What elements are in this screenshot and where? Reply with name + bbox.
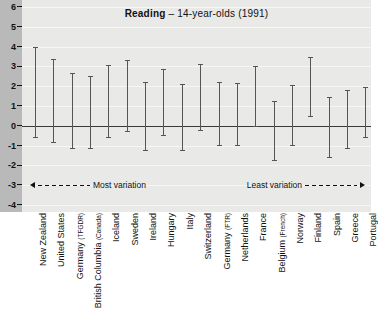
range-bar: [310, 57, 311, 116]
range-bar-top-cap: [217, 82, 222, 83]
category-label-main: Greece: [350, 213, 360, 243]
category-label: Portugal: [369, 213, 378, 247]
range-bar: [72, 73, 73, 147]
y-axis-tick: -1: [0, 140, 22, 152]
range-bar-bottom-cap: [272, 160, 277, 161]
range-bar-top-cap: [106, 65, 111, 66]
category-label: Italy: [186, 213, 195, 230]
category-label: Hungary: [167, 213, 176, 247]
most-variation-label: Most variation: [93, 180, 146, 190]
category-label-main: New Zealand: [38, 213, 48, 266]
category-label-main: Switzerland: [203, 213, 213, 260]
range-bar: [347, 90, 348, 147]
most-variation-annotation: Most variation: [30, 180, 146, 190]
grid-line: [22, 106, 371, 107]
range-bar-top-cap: [345, 90, 350, 91]
grid-line: [22, 27, 371, 28]
y-axis-tick-label: -2: [8, 159, 17, 171]
dashed-line-left: [38, 185, 90, 186]
variation-annotations: Most variation Least variation: [22, 180, 371, 193]
y-axis-tick: 1: [0, 100, 22, 112]
range-bar-top-cap: [51, 59, 56, 60]
y-axis-tick: 2: [0, 80, 22, 92]
range-bar-bottom-cap: [180, 150, 185, 151]
range-bar-top-cap: [88, 76, 93, 77]
range-bar-top-cap: [33, 47, 38, 48]
category-label-main: Sweden: [130, 213, 140, 246]
range-bar-top-cap: [327, 97, 332, 98]
category-label: Finland: [314, 213, 323, 243]
category-label: British Columbia (Canada): [94, 213, 103, 308]
y-axis-tick: -2: [0, 159, 22, 171]
grid-line: [22, 165, 371, 166]
range-bar-bottom-cap: [235, 145, 240, 146]
range-bar-top-cap: [253, 66, 258, 67]
range-bar-top-cap: [235, 83, 240, 84]
category-label: Iceland: [112, 213, 121, 242]
category-label: Switzerland: [204, 213, 213, 260]
y-axis-tick-label: -3: [8, 179, 17, 191]
category-label-main: United States: [56, 213, 66, 267]
category-label: Sweden: [131, 213, 140, 246]
category-label-sub: (FTR): [224, 213, 231, 230]
category-label: France: [259, 213, 268, 241]
y-axis-tick: -4: [0, 199, 22, 211]
category-label-main: British Columbia: [93, 240, 103, 308]
chart-title-rest: – 14-year-olds (1991): [166, 8, 269, 19]
range-bar-top-cap: [70, 73, 75, 74]
category-label-main: Finland: [313, 213, 323, 243]
y-axis-tick: 4: [0, 41, 22, 53]
zero-line: [22, 126, 371, 127]
category-label-main: Italy: [185, 213, 195, 230]
y-axis-tick-label: -4: [8, 199, 17, 211]
range-bar: [53, 59, 54, 141]
range-bar-bottom-cap: [70, 148, 75, 149]
range-bar: [329, 97, 330, 157]
range-bar-bottom-cap: [253, 126, 258, 127]
least-variation-annotation: Least variation: [247, 180, 365, 190]
range-bar-top-cap: [125, 60, 130, 61]
category-label-sub: (Canada): [95, 213, 102, 240]
range-bar-bottom-cap: [88, 148, 93, 149]
range-bar: [200, 64, 201, 129]
range-bar: [108, 65, 109, 136]
range-bar: [237, 83, 238, 144]
range-bar-top-cap: [363, 87, 368, 88]
category-label: Spain: [333, 213, 342, 236]
category-label-main: Netherlands: [240, 213, 250, 262]
range-bar-top-cap: [290, 85, 295, 86]
range-bar: [255, 66, 256, 125]
range-bar-top-cap: [198, 64, 203, 65]
category-label-main: France: [258, 213, 268, 241]
range-bar: [219, 82, 220, 144]
arrow-left-icon: [30, 182, 35, 188]
category-label: Norway: [296, 213, 305, 244]
category-label-main: Ireland: [148, 213, 158, 241]
range-bar: [145, 82, 146, 149]
category-label-main: Hungary: [166, 213, 176, 247]
range-bar-bottom-cap: [363, 137, 368, 138]
category-label-sub: (French): [279, 213, 286, 238]
range-bar-top-cap: [161, 69, 166, 70]
category-label-main: Iceland: [111, 213, 121, 242]
grid-line: [22, 86, 371, 87]
chart-title: Reading – 14-year-olds (1991): [22, 8, 371, 19]
range-bar: [35, 47, 36, 137]
range-bar-bottom-cap: [345, 148, 350, 149]
range-bar-bottom-cap: [33, 137, 38, 138]
y-axis-tick: 3: [0, 60, 22, 72]
category-label: New Zealand: [39, 213, 48, 266]
range-bar-bottom-cap: [51, 142, 56, 143]
dashed-line-right: [305, 185, 357, 186]
category-labels: New ZealandUnited StatesGermany (TFGDR)B…: [22, 213, 371, 324]
y-axis-tick: 0: [0, 120, 22, 132]
range-bar: [90, 76, 91, 147]
range-bar-bottom-cap: [217, 145, 222, 146]
y-axis-tick: 6: [0, 1, 22, 13]
y-axis-tick-label: -1: [8, 140, 17, 152]
category-label-main: Belgium: [277, 238, 287, 273]
range-bar: [274, 101, 275, 160]
range-bar-bottom-cap: [198, 130, 203, 131]
range-bar: [292, 85, 293, 144]
category-label-main: Portugal: [368, 213, 378, 247]
